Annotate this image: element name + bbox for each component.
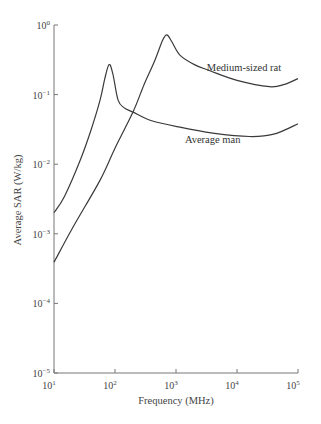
x-tick-label: 101 [42, 379, 56, 391]
x-ticks: 101102103104105 [42, 369, 300, 391]
x-tick-label: 104 [225, 379, 239, 391]
y-tick-label: 10−4 [33, 297, 51, 309]
sar-frequency-chart: 101102103104105 10010−110−210−310−410−5 … [0, 0, 321, 424]
y-axis-title: Average SAR (W/kg) [12, 154, 24, 245]
series-line-average-man [54, 64, 298, 212]
series-label-average-man: Average man [185, 134, 241, 145]
y-tick-label: 10−5 [33, 367, 51, 379]
x-axis-title: Frequency (MHz) [138, 395, 214, 407]
y-tick-label: 100 [37, 19, 51, 31]
x-tick-label: 103 [164, 379, 178, 391]
x-tick-label: 105 [286, 379, 300, 391]
x-tick-label: 102 [103, 379, 117, 391]
y-tick-label: 10−2 [33, 158, 51, 170]
y-tick-label: 10−1 [33, 89, 51, 101]
series-label-medium-sized-rat: Medium-sized rat [207, 62, 281, 73]
series-layer: Average manMedium-sized rat [54, 35, 298, 262]
y-tick-label: 10−3 [33, 228, 51, 240]
